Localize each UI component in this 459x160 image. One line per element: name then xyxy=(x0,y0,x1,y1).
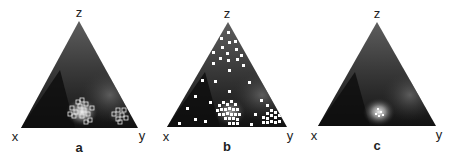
ternary-panel-b xyxy=(167,22,292,127)
vertex-label-z-c: z xyxy=(374,7,381,20)
ternary-panel-a xyxy=(21,21,140,128)
vertex-label-y-c: y xyxy=(436,128,443,141)
vertex-label-y-b: y xyxy=(287,129,294,142)
vertex-label-x-b: x xyxy=(163,130,170,143)
panel-label-a: a xyxy=(75,141,82,154)
vertex-label-z-b: z xyxy=(224,7,231,20)
ternary-figure xyxy=(0,0,459,160)
panel-label-b: b xyxy=(223,140,231,153)
panel-label-c: c xyxy=(373,139,380,152)
ternary-panel-c xyxy=(318,22,438,126)
vertex-label-x-c: x xyxy=(311,129,318,142)
vertex-label-x-a: x xyxy=(12,130,19,143)
vertex-label-y-a: y xyxy=(139,129,146,142)
vertex-label-z-a: z xyxy=(76,6,83,19)
